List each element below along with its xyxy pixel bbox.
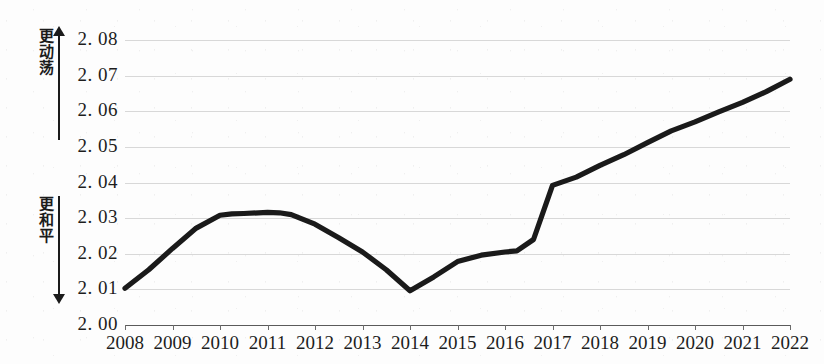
x-axis-tick xyxy=(600,325,601,330)
chart-figure: 更动荡 更和平 2. 082. 072. 062. 052. 042. 032.… xyxy=(0,0,824,364)
y-axis-tick-label: 2. 06 xyxy=(52,99,118,121)
x-axis-tick xyxy=(648,325,649,330)
y-axis-tick-label: 2. 01 xyxy=(52,277,118,299)
y-axis-tick-label: 2. 03 xyxy=(52,206,118,228)
x-axis-tick-label: 2020 xyxy=(669,332,721,354)
x-axis-tick-label: 2018 xyxy=(574,332,626,354)
y-axis-tick-label: 2. 07 xyxy=(52,64,118,86)
x-axis-tick xyxy=(553,325,554,330)
data-series-line xyxy=(125,40,790,325)
x-axis-tick-label: 2010 xyxy=(194,332,246,354)
x-axis-tick-label: 2011 xyxy=(242,332,294,354)
y-axis-direction-label-top: 更动荡 xyxy=(6,28,52,76)
x-axis-tick xyxy=(458,325,459,330)
y-axis-direction-label-bottom: 更和平 xyxy=(6,196,52,244)
y-axis-tick-label: 2. 04 xyxy=(52,171,118,193)
x-axis-tick xyxy=(505,325,506,330)
x-axis-tick-label: 2014 xyxy=(384,332,436,354)
x-axis-tick-label: 2008 xyxy=(99,332,151,354)
x-axis-tick-label: 2021 xyxy=(717,332,769,354)
x-axis-tick xyxy=(268,325,269,330)
x-axis-tick-label: 2016 xyxy=(479,332,531,354)
y-axis-tick-label: 2. 02 xyxy=(52,242,118,264)
y-axis-tick-label: 2. 08 xyxy=(52,28,118,50)
x-axis-tick xyxy=(220,325,221,330)
x-axis-tick xyxy=(410,325,411,330)
plot-area xyxy=(125,40,790,325)
x-axis-tick xyxy=(695,325,696,330)
x-axis-tick-label: 2022 xyxy=(764,332,816,354)
x-axis-tick-label: 2012 xyxy=(289,332,341,354)
x-axis-tick xyxy=(790,325,791,330)
y-axis-tick-label: 2. 05 xyxy=(52,135,118,157)
x-axis-tick-label: 2009 xyxy=(147,332,199,354)
x-axis-tick xyxy=(125,325,126,330)
x-axis-tick xyxy=(173,325,174,330)
x-axis-tick-label: 2017 xyxy=(527,332,579,354)
x-axis-tick-label: 2015 xyxy=(432,332,484,354)
x-axis-tick xyxy=(315,325,316,330)
x-axis-tick-label: 2019 xyxy=(622,332,674,354)
x-axis-tick-label: 2013 xyxy=(337,332,389,354)
x-axis-tick xyxy=(743,325,744,330)
x-axis-tick xyxy=(363,325,364,330)
